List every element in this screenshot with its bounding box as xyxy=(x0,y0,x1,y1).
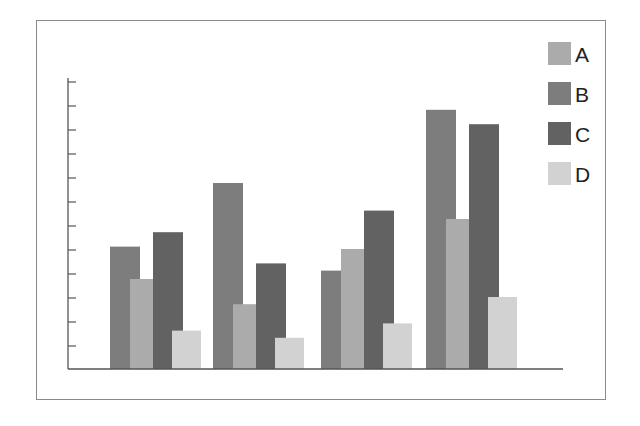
legend-label-c: C xyxy=(575,123,590,146)
legend-label-a: A xyxy=(575,43,589,66)
bar-d-group-1 xyxy=(172,331,201,369)
bar-d-group-4 xyxy=(488,297,517,369)
legend-label-d: D xyxy=(575,163,590,186)
bar-a-group-2 xyxy=(233,304,256,369)
legend-label-b: B xyxy=(575,83,589,106)
bar-a-group-1 xyxy=(130,279,153,369)
bar-d-group-2 xyxy=(275,338,304,369)
legend-swatch-d xyxy=(548,162,571,185)
legend-swatch-a xyxy=(548,42,571,65)
bars-group xyxy=(110,110,517,369)
legend: ABCD xyxy=(548,42,590,186)
legend-swatch-b xyxy=(548,82,571,105)
legend-swatch-c xyxy=(548,122,571,145)
bar-d-group-3 xyxy=(383,323,412,369)
bar-a-group-4 xyxy=(446,219,469,369)
bar-a-group-3 xyxy=(341,249,364,369)
bar-chart: ABCD xyxy=(0,0,640,426)
